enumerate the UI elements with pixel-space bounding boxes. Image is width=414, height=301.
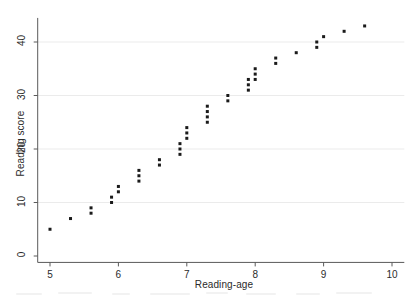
data-point xyxy=(137,169,140,172)
data-point xyxy=(158,158,161,161)
data-point xyxy=(137,174,140,177)
data-point xyxy=(117,185,120,188)
data-point xyxy=(254,67,257,70)
data-point xyxy=(315,46,318,49)
data-point xyxy=(206,110,209,113)
data-point xyxy=(206,115,209,118)
plot-canvas xyxy=(0,0,414,301)
data-point xyxy=(226,99,229,102)
data-point xyxy=(90,206,93,209)
y-tick-label-0: 0 xyxy=(15,244,26,266)
data-points xyxy=(49,24,367,230)
data-point xyxy=(137,180,140,183)
data-point xyxy=(343,30,346,33)
data-point xyxy=(178,142,181,145)
data-point xyxy=(295,51,298,54)
axis-ticks xyxy=(34,42,392,266)
data-point xyxy=(254,78,257,81)
data-point xyxy=(363,24,366,27)
data-point xyxy=(274,62,277,65)
data-point xyxy=(315,41,318,44)
data-point xyxy=(247,83,250,86)
data-point xyxy=(206,105,209,108)
data-point xyxy=(178,153,181,156)
data-point xyxy=(185,131,188,134)
axis-lines xyxy=(38,18,405,262)
data-point xyxy=(69,217,72,220)
data-point xyxy=(274,57,277,60)
data-point xyxy=(206,121,209,124)
data-point xyxy=(185,126,188,129)
x-axis-title: Reading-age xyxy=(0,279,414,290)
y-tick-label-40: 40 xyxy=(15,30,26,52)
data-point xyxy=(110,196,113,199)
scatter-plot-figure: 010203040 5678910 Reading score Reading-… xyxy=(0,0,414,301)
data-point xyxy=(90,212,93,215)
data-point xyxy=(158,164,161,167)
data-point xyxy=(322,35,325,38)
data-point xyxy=(247,78,250,81)
y-tick-label-10: 10 xyxy=(15,190,26,212)
data-point xyxy=(178,148,181,151)
y-axis-title: Reading score xyxy=(15,102,26,186)
data-point xyxy=(49,228,52,231)
data-point xyxy=(247,89,250,92)
data-point xyxy=(226,94,229,97)
data-point xyxy=(185,137,188,140)
data-point xyxy=(110,201,113,204)
data-point xyxy=(254,73,257,76)
data-point xyxy=(117,190,120,193)
gridlines xyxy=(38,42,405,203)
